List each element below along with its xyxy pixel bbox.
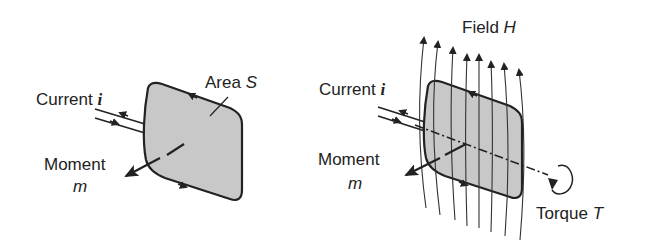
- left-current-label: Current i: [36, 91, 102, 108]
- current-symbol: i: [380, 80, 385, 99]
- current-text: Current: [36, 90, 93, 109]
- left-moment-label: Moment: [44, 156, 105, 173]
- torque-text: Torque: [536, 204, 588, 223]
- current-symbol: i: [97, 90, 102, 109]
- area-symbol: S: [246, 73, 257, 92]
- field-symbol: H: [504, 18, 516, 37]
- right-current-loop: [378, 81, 522, 198]
- field-text: Field: [462, 18, 499, 37]
- left-moment-symbol: m: [73, 178, 87, 195]
- right-moment-label: Moment: [318, 151, 379, 168]
- right-current-label: Current i: [319, 81, 385, 98]
- torque-rotation-arrow: [548, 165, 572, 194]
- moment-text: Moment: [318, 150, 379, 169]
- right-moment-symbol: m: [348, 175, 362, 192]
- area-text: Area: [205, 73, 241, 92]
- left-area-label: Area S: [205, 74, 257, 91]
- current-text: Current: [319, 80, 376, 99]
- torque-label: Torque T: [536, 205, 603, 222]
- moment-text: Moment: [44, 155, 105, 174]
- left-current-loop: [95, 83, 242, 200]
- torque-symbol: T: [593, 204, 603, 223]
- field-label: Field H: [462, 19, 516, 36]
